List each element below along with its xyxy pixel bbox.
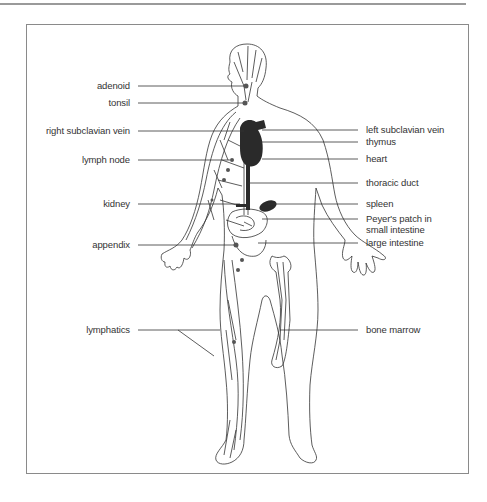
label-thymus: thymus (366, 137, 396, 147)
label-adenoid: adenoid (20, 81, 130, 91)
label-large-intestine: large intestine (366, 238, 424, 248)
body-illustration (0, 0, 487, 502)
label-spleen: spleen (366, 199, 393, 209)
label-tonsil: tonsil (20, 98, 130, 108)
label-lymph-node: lymph node (20, 155, 130, 165)
label-peyers-patch-line2: small intestine (366, 225, 425, 235)
label-lymphatics: lymphatics (20, 325, 130, 335)
label-heart: heart (366, 154, 387, 164)
label-right-subclavian-vein: right subclavian vein (20, 126, 130, 136)
label-bone-marrow: bone marrow (366, 325, 420, 335)
label-appendix: appendix (20, 240, 130, 250)
label-thoracic-duct: thoracic duct (366, 178, 419, 188)
label-kidney: kidney (20, 199, 130, 209)
label-peyers-patch: Peyer's patch in (366, 214, 432, 224)
label-left-subclavian-vein: left subclavian vein (366, 125, 444, 135)
